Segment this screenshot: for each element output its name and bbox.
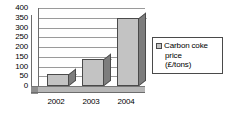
y-tick-50: 50: [20, 72, 29, 80]
x-axis-line: [31, 92, 145, 93]
bar-2003-side: [104, 53, 111, 86]
y-axis-line: [31, 15, 32, 86]
gridline-400: [38, 8, 145, 9]
legend-label-line-1: Carbon coke: [164, 41, 208, 51]
y-tick-350: 350: [15, 14, 28, 22]
legend-label-line-2: price: [164, 51, 208, 61]
bar-2003-face: [82, 59, 104, 86]
y-tick-250: 250: [15, 33, 28, 41]
y-axis-back-line: [38, 8, 39, 86]
legend-label-line-3: (£/tons): [164, 60, 208, 70]
x-tick-2002: 2002: [41, 97, 71, 106]
bar-chart: 400 350 300 250 200 150 100 50 0: [0, 0, 228, 117]
plot-area: [31, 8, 145, 93]
bar-2004: [117, 18, 139, 86]
legend-swatch-icon: [156, 43, 162, 49]
y-axis-tick-labels: 400 350 300 250 200 150 100 50 0: [0, 8, 28, 93]
legend-entry-label: Carbon coke price (£/tons): [164, 41, 208, 70]
y-tick-100: 100: [15, 63, 28, 71]
x-tick-2004: 2004: [111, 97, 141, 106]
y-tick-150: 150: [15, 53, 28, 61]
legend-entry-carbon-coke-price: Carbon coke price (£/tons): [156, 41, 219, 70]
y-tick-0: 0: [24, 82, 28, 90]
x-tick-2003: 2003: [76, 97, 106, 106]
bar-2004-face: [117, 18, 139, 86]
x-axis-tick-labels: 2002 2003 2004: [31, 97, 145, 109]
bar-2003: [82, 59, 104, 86]
y-tick-200: 200: [15, 43, 28, 51]
chart-legend: Carbon coke price (£/tons): [152, 37, 223, 74]
bar-2002: [47, 74, 69, 86]
bar-2004-side: [139, 12, 146, 86]
y-tick-300: 300: [15, 24, 28, 32]
y-tick-400: 400: [15, 4, 28, 12]
bar-2002-face: [47, 74, 69, 86]
